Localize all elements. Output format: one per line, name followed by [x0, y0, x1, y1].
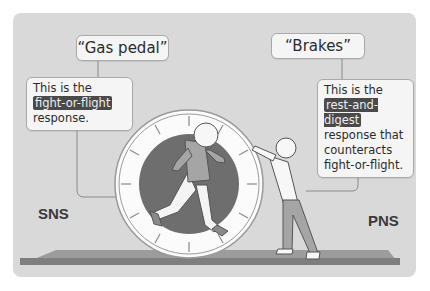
gas-pedal-title: “Gas pedal”: [77, 39, 167, 57]
sns-desc-line1: This is the: [33, 81, 127, 96]
sns-desc-line3: response.: [33, 111, 127, 126]
brakes-title: “Brakes”: [285, 37, 351, 55]
sns-description-box: This is the fight-or-flight response.: [26, 77, 133, 131]
fight-or-flight-highlight: fight-or-flight: [33, 96, 112, 110]
pns-desc-line3: response that: [324, 128, 408, 143]
rest-and-digest-highlight: rest-and-digest: [324, 98, 378, 127]
pns-description-box: This is the rest-and-digest response tha…: [317, 79, 414, 178]
sns-label: SNS: [38, 205, 69, 222]
pns-desc-line1: This is the: [324, 83, 408, 98]
brakes-label: “Brakes”: [271, 33, 365, 59]
pns-desc-line5: fight-or-flight.: [324, 158, 408, 173]
pns-label: PNS: [368, 212, 399, 229]
gas-pedal-label: “Gas pedal”: [76, 35, 169, 61]
pns-desc-line4: counteracts: [324, 143, 408, 158]
